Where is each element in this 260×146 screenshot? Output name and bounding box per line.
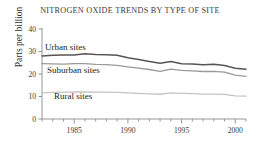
x-tick-label: 1985	[67, 126, 82, 135]
y-tick-label: 20	[28, 70, 36, 79]
series-label-suburban: Suburban sites	[47, 65, 100, 75]
chart-container: NITROGEN OXIDE TRENDS BY TYPE OF SITE Pa…	[0, 0, 260, 146]
y-tick-label: 30	[28, 47, 36, 56]
x-tick-label: 1990	[120, 126, 135, 135]
y-tick-label: 0	[32, 115, 36, 124]
x-tick-label: 1995	[174, 126, 189, 135]
series-label-urban: Urban sites	[45, 42, 86, 52]
y-tick-label: 10	[28, 92, 36, 101]
y-tick-label: 40	[28, 25, 36, 34]
series-label-rural: Rural sites	[54, 91, 92, 101]
x-tick-label: 2000	[228, 126, 243, 135]
plot-area: 0102030401985199019952000	[0, 0, 260, 146]
